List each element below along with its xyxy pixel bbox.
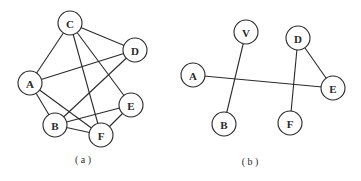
- node-label: F: [287, 118, 294, 130]
- node-a-E: E: [119, 93, 143, 117]
- node-label: B: [51, 120, 59, 132]
- node-b-E: E: [321, 76, 345, 100]
- node-label: C: [66, 18, 74, 30]
- node-label: E: [127, 100, 134, 112]
- edge-b-D-F: [290, 38, 298, 123]
- node-label: E: [329, 83, 336, 95]
- edge-a-A-D: [30, 50, 135, 83]
- caption-a: ( a ): [75, 154, 91, 166]
- node-a-A: A: [18, 71, 42, 95]
- node-b-D: D: [286, 26, 310, 50]
- node-b-F: F: [278, 111, 302, 135]
- node-label: V: [242, 27, 250, 39]
- edge-a-C-F: [70, 23, 101, 135]
- node-a-F: F: [89, 123, 113, 147]
- node-a-D: D: [123, 38, 147, 62]
- nodes-layer: CDAEBFVDAEBF: [18, 11, 345, 147]
- node-label: A: [26, 78, 34, 90]
- node-label: D: [294, 33, 302, 45]
- node-label: A: [189, 70, 197, 82]
- node-b-A: A: [181, 63, 205, 87]
- caption-b: ( b ): [242, 156, 259, 168]
- node-b-B: B: [212, 112, 236, 136]
- node-b-V: V: [234, 20, 258, 44]
- node-label: D: [131, 45, 139, 57]
- graph-canvas: CDAEBFVDAEBF ( a )( b ): [0, 0, 361, 181]
- captions-layer: ( a )( b ): [75, 154, 258, 168]
- edge-b-A-E: [193, 75, 333, 88]
- node-label: B: [220, 119, 228, 131]
- node-label: F: [98, 130, 105, 142]
- node-a-C: C: [58, 11, 82, 35]
- node-a-B: B: [43, 113, 67, 137]
